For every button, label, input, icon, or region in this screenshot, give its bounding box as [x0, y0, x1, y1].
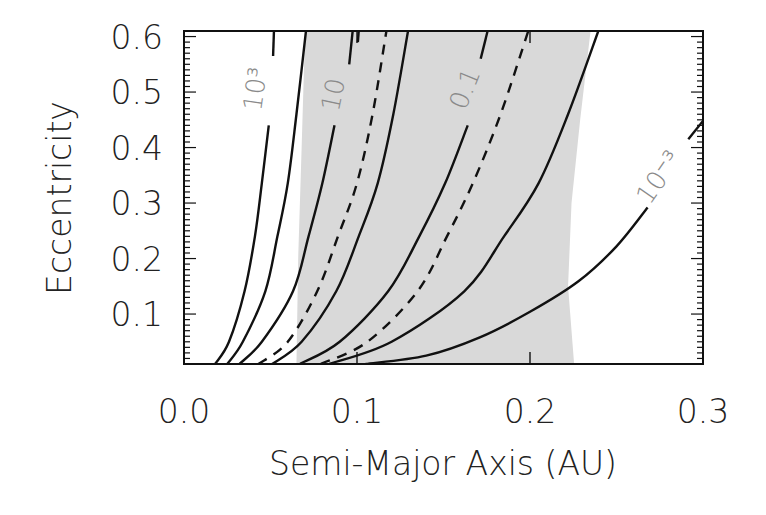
contour-line-10-3	[215, 125, 269, 364]
y-tick-label: 0.4	[111, 129, 163, 168]
y-tick-label: 0.2	[111, 240, 163, 279]
y-tick-label: 0.5	[111, 73, 163, 112]
x-tick-label: 0.1	[331, 392, 383, 431]
x-tick-label: 0.3	[677, 392, 729, 431]
contour-label: 10³	[237, 65, 273, 112]
y-tick-label: 0.6	[111, 18, 163, 57]
contour-line-c-short	[358, 31, 359, 42]
y-tick-label: 0.3	[111, 184, 163, 223]
y-tick-label: 0.1	[111, 295, 163, 334]
y-axis-title: Eccentricity	[40, 101, 79, 295]
contour-line-10-3	[273, 31, 274, 56]
x-tick-label: 0.0	[158, 392, 210, 431]
x-tick-label: 0.2	[504, 392, 556, 431]
contour-label: 10⁻³	[630, 145, 688, 209]
x-axis-title: Semi-Major Axis (AU)	[269, 444, 617, 483]
chart: 10³100.110⁻³ 0.10.20.30.40.50.60.00.10.2…	[0, 0, 766, 515]
